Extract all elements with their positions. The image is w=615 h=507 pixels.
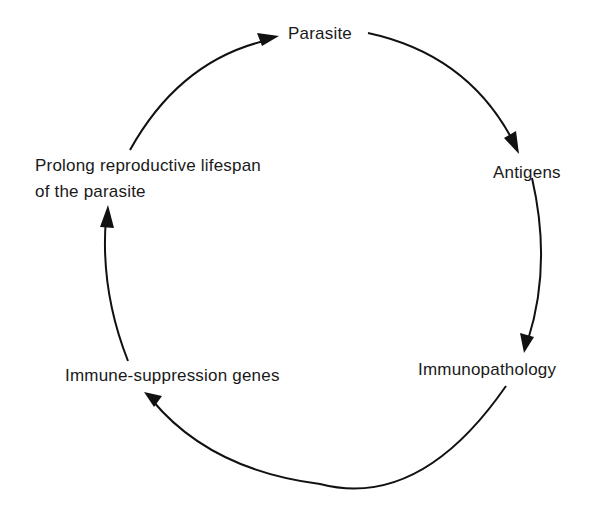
arrow-immunopathology-to-immune-suppression (152, 386, 506, 489)
arrow-parasite-to-antigens (368, 33, 515, 145)
arrowhead-immunopathology (520, 333, 534, 353)
arrowhead-antigens (504, 131, 519, 154)
node-immunopathology: Immunopathology (418, 359, 556, 380)
node-antigens: Antigens (493, 162, 561, 183)
arrowhead-immune-suppression (144, 392, 162, 407)
cycle-diagram: Parasite Antigens Immunopathology Immune… (0, 0, 615, 507)
arrowhead-prolong (100, 205, 114, 228)
cycle-arrows (0, 0, 615, 507)
node-prolong-line2: of the parasite (35, 181, 146, 202)
node-prolong-line1: Prolong reproductive lifespan (35, 155, 261, 176)
arrowhead-parasite (257, 33, 279, 46)
node-parasite: Parasite (288, 23, 352, 44)
arrow-antigens-to-immunopathology (528, 178, 541, 340)
node-immune-suppression-genes: Immune-suppression genes (65, 365, 280, 386)
arrow-immune-suppression-to-prolong (105, 218, 128, 361)
arrow-prolong-to-parasite (130, 40, 268, 150)
